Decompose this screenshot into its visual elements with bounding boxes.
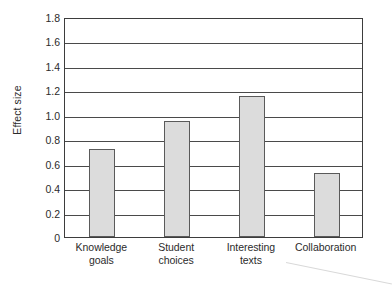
y-tick-label: 0.8 [26,135,60,146]
x-tick-label-line: Collaboration [280,241,371,254]
bar-slot [140,19,215,237]
x-tick-label-line: texts [206,254,297,267]
y-tick-label: 1.8 [26,13,60,24]
bar[interactable] [239,96,265,237]
x-tick-label: Collaboration [280,241,371,254]
bar-slot [65,19,140,237]
y-tick-label: 1.6 [26,37,60,48]
plot-area [64,18,363,238]
bars-layer [65,19,362,237]
bar[interactable] [314,173,340,237]
bar-slot [289,19,364,237]
bar[interactable] [164,121,190,237]
x-axis-tick-labels: KnowledgegoalsStudentchoicesInterestingt… [64,241,363,277]
y-tick-label: 0.4 [26,184,60,195]
y-tick-label: 1.0 [26,111,60,122]
bar[interactable] [89,149,115,237]
y-tick-label: 0.6 [26,159,60,170]
y-tick-label: 0.2 [26,208,60,219]
y-axis-tick-labels: 00.20.40.60.81.01.21.41.61.8 [26,18,60,238]
y-axis-title: Effect size [11,75,23,145]
y-tick-label: 0 [26,233,60,244]
y-tick-label: 1.2 [26,86,60,97]
y-tick-label: 1.4 [26,62,60,73]
bar-slot [215,19,290,237]
